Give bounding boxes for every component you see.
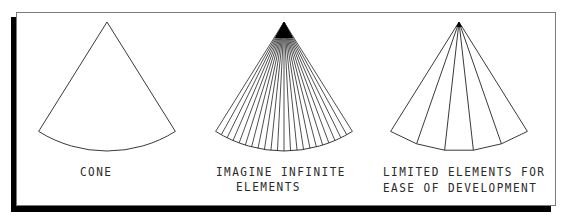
label-limited-line-2: EASE OF DEVELOPMENT — [383, 181, 537, 195]
frame-shadow-bottom — [11, 205, 551, 212]
label-limited-line-1: LIMITED ELEMENTS FOR — [383, 165, 545, 179]
label-infinite-line-1: IMAGINE INFINITE — [216, 165, 346, 179]
label-infinite-line-2: ELEMENTS — [236, 180, 301, 194]
label-cone-line-1: CONE — [80, 165, 112, 179]
